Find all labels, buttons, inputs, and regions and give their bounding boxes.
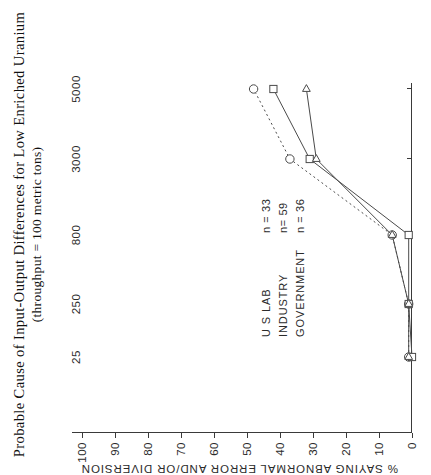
y-tick-label: 100 [76, 442, 88, 463]
plot-area: 2525080030005000 0102030405060708090100 … [62, 33, 412, 433]
y-tick-mark [346, 433, 347, 438]
legend-item: GOVERNMENT n = 36 [292, 199, 309, 338]
chart-title-block: Probable Cause of Input-Output Differenc… [10, 0, 46, 469]
y-tick-label: 0 [406, 442, 418, 449]
legend-item: U S LAB n = 33 [258, 199, 275, 338]
y-tick-mark [280, 433, 281, 438]
y-tick-mark [214, 433, 215, 438]
legend-series-name: GOVERNMENT [292, 233, 309, 337]
data-point-marker [303, 85, 311, 92]
y-tick-label: 30 [307, 442, 319, 456]
legend-series-name: INDUSTRY [275, 233, 292, 337]
y-tick-label: 70 [175, 442, 187, 456]
y-tick-mark [82, 433, 83, 438]
data-point-marker [405, 231, 412, 238]
y-tick-label: 60 [208, 442, 220, 456]
y-tick-mark [247, 433, 248, 438]
series-plot [62, 33, 412, 433]
page-title: Probable Cause of Input-Output Differenc… [10, 0, 28, 469]
y-tick-label: 50 [241, 442, 253, 456]
y-tick-label: 10 [373, 442, 385, 456]
y-tick-label: 40 [274, 442, 286, 456]
y-tick-mark [115, 433, 116, 438]
chart-legend: U S LAB n = 33 INDUSTRY n= 59 GOVERNMENT… [258, 199, 309, 338]
y-tick-mark [379, 433, 380, 438]
legend-series-n: n = 33 [258, 199, 275, 234]
y-tick-mark [181, 433, 182, 438]
data-point-marker [286, 155, 294, 163]
y-tick-label: 80 [142, 442, 154, 456]
y-tick-label: 90 [109, 442, 121, 456]
legend-series-n: n = 36 [292, 199, 309, 234]
legend-series-name: U S LAB [258, 233, 275, 337]
y-tick-mark [148, 433, 149, 438]
data-point-marker [270, 85, 277, 92]
legend-item: INDUSTRY n= 59 [275, 199, 292, 338]
y-tick-mark [412, 433, 413, 438]
legend-series-n: n= 59 [275, 202, 292, 233]
y-axis-title: % SAYING ABNORMAL ERROR AND/OR DIVERSION [81, 463, 398, 475]
y-tick-mark [313, 433, 314, 438]
y-tick-label: 20 [340, 442, 352, 456]
page-subtitle: (throughput = 100 metric tons) [28, 0, 46, 469]
data-point-marker [249, 85, 257, 93]
